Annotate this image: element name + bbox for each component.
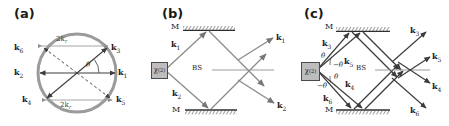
label-k3-subscript: 3 [117, 47, 121, 54]
label-k2-subscript: 2 [20, 72, 24, 79]
input-k6-subscript: 6 [329, 98, 333, 105]
bottom-mirror-label: M [172, 106, 180, 114]
top-mirror-surface [183, 26, 235, 30]
span-top-2kr-label: 2kr [56, 36, 67, 44]
bottom-mirror-surface [336, 110, 390, 114]
top-mirror-surface [336, 27, 390, 31]
vector-k5-arrow [77, 73, 110, 98]
output-k2-subscript: 2 [283, 105, 287, 112]
beamsplitter-label: BS [356, 65, 366, 72]
output-label-k1: k1 [276, 33, 285, 44]
output-label-k4: k4 [432, 82, 441, 93]
input-label-k3: k3 [322, 39, 331, 50]
input-k2-subscript: 2 [178, 93, 182, 100]
crystal-superscript: (2) [158, 68, 165, 73]
vector-k4-arrow [47, 73, 77, 98]
output-k6-subscript: 6 [416, 110, 420, 117]
span-bottom-value: 2k [60, 101, 69, 109]
output-label-k6: k6 [410, 106, 419, 117]
input-label-k5: k5 [344, 57, 353, 68]
input-label-k6: k6 [323, 94, 332, 105]
angle-arc-lower [330, 76, 331, 83]
panel-b: (b) [150, 0, 300, 126]
output-label-k2: k2 [277, 101, 286, 112]
panel-a-diagram [0, 0, 150, 126]
output-k3-beam [392, 32, 426, 62]
panel-c-diagram [300, 0, 449, 126]
beam-bottom-mirror-b-to-bs [365, 71, 403, 109]
label-k3: k3 [111, 43, 120, 54]
output-k5-beam [398, 57, 430, 78]
input-label-k4: k4 [345, 80, 354, 91]
output-label-k3: k3 [410, 26, 419, 37]
output-k1-subscript: 1 [282, 37, 286, 44]
input-k1-subscript: 1 [177, 44, 181, 51]
output-k3-subscript: 3 [416, 30, 420, 37]
input-label-k2: k2 [172, 89, 181, 100]
label-k6-subscript: 6 [20, 47, 24, 54]
theta-label: θ [86, 62, 90, 69]
nonlinear-crystal-chi2[interactable]: χ(2) [301, 62, 320, 81]
beam-top-mirror-to-bs [209, 31, 264, 86]
input-label-k1: k1 [171, 40, 180, 51]
output-k4-subscript: 4 [438, 86, 442, 93]
label-k5: k5 [116, 95, 125, 106]
panel-c: (c) [300, 0, 449, 126]
input-k4-subscript: 4 [351, 84, 355, 91]
output-k2-beam [238, 80, 274, 103]
top-mirror-label: M [171, 23, 179, 31]
label-k6: k6 [14, 43, 23, 54]
figure-container: (a) [0, 0, 449, 126]
angle-label-upper-negative: −θ [333, 62, 343, 69]
beam-top-mirror-b-to-bs [363, 32, 401, 70]
output-label-k5: k5 [432, 52, 441, 63]
span-bottom-2kr-label: 2kr [60, 102, 71, 110]
top-mirror-label: M [325, 23, 333, 31]
nonlinear-crystal-chi2[interactable]: χ(2) [151, 62, 168, 79]
beam-bottom-mirror-to-bs [211, 54, 266, 109]
span-bottom-subscript: r [69, 104, 71, 110]
span-top-subscript: r [65, 38, 67, 44]
output-k1-beam [238, 38, 273, 60]
output-k6-beam [392, 78, 426, 108]
theta-arc [95, 60, 100, 73]
label-k1-subscript: 1 [124, 72, 128, 79]
label-k5-subscript: 5 [122, 99, 126, 106]
span-top-value: 2k [56, 35, 65, 43]
label-k1: k1 [118, 68, 127, 79]
crystal-superscript: (2) [309, 69, 316, 74]
vector-k6-arrow [44, 48, 77, 73]
vector-k3-arrow [77, 48, 107, 73]
input-k5-subscript: 5 [350, 61, 354, 68]
bottom-mirror-surface [185, 110, 237, 114]
angle-label-lower-negative: −θ [317, 83, 327, 90]
bottom-mirror-label: M [325, 106, 333, 114]
panel-a: (a) [0, 0, 150, 126]
angle-label-upper-positive: θ [321, 53, 325, 60]
beamsplitter-label: BS [192, 65, 202, 72]
output-k4-beam [398, 62, 430, 83]
output-k5-subscript: 5 [438, 56, 442, 63]
label-k4: k4 [22, 95, 31, 106]
label-k2: k2 [14, 68, 23, 79]
label-k4-subscript: 4 [28, 99, 32, 106]
angle-label-lower-positive: θ [334, 74, 338, 81]
input-k3-subscript: 3 [328, 43, 332, 50]
